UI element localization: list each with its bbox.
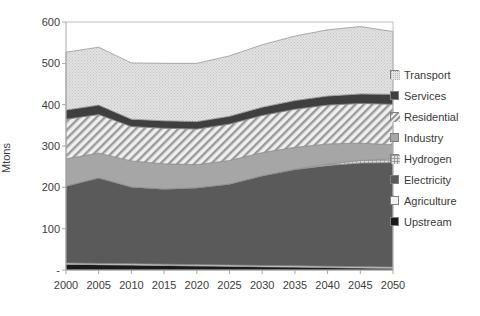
legend-swatch-icon bbox=[390, 91, 399, 100]
legend-label: Industry bbox=[404, 132, 443, 144]
legend-label: Services bbox=[404, 90, 446, 102]
x-tick-label: 2000 bbox=[54, 279, 78, 291]
x-tick-label: 2020 bbox=[185, 279, 209, 291]
x-tick-label: 2005 bbox=[86, 279, 110, 291]
legend-swatch-icon bbox=[390, 70, 399, 79]
legend-swatch-icon bbox=[390, 112, 399, 121]
legend-label: Residential bbox=[404, 111, 458, 123]
legend-label: Agriculture bbox=[404, 195, 457, 207]
legend-label: Upstream bbox=[404, 216, 452, 228]
chart-legend: TransportServicesResidentialIndustryHydr… bbox=[390, 64, 458, 232]
x-tick-label: 2030 bbox=[250, 279, 274, 291]
x-tick-label: 2035 bbox=[283, 279, 307, 291]
legend-swatch-icon bbox=[390, 175, 399, 184]
legend-swatch-icon bbox=[390, 196, 399, 205]
legend-item-hydrogen[interactable]: Hydrogen bbox=[390, 148, 458, 169]
legend-swatch-icon bbox=[390, 133, 399, 142]
x-tick-label: 2040 bbox=[315, 279, 339, 291]
x-tick-label: 2015 bbox=[152, 279, 176, 291]
x-tick-label: 2010 bbox=[119, 279, 143, 291]
legend-item-residential[interactable]: Residential bbox=[390, 106, 458, 127]
legend-item-transport[interactable]: Transport bbox=[390, 64, 458, 85]
legend-item-upstream[interactable]: Upstream bbox=[390, 211, 458, 232]
y-tick-label: 100 bbox=[4, 223, 60, 235]
legend-label: Electricity bbox=[404, 174, 451, 186]
legend-swatch-icon bbox=[390, 217, 399, 226]
y-tick-label: 600 bbox=[4, 16, 60, 28]
y-tick-label: 300 bbox=[4, 140, 60, 152]
y-tick-label: - bbox=[4, 264, 60, 276]
legend-item-industry[interactable]: Industry bbox=[390, 127, 458, 148]
y-tick-label: 400 bbox=[4, 99, 60, 111]
legend-item-agriculture[interactable]: Agriculture bbox=[390, 190, 458, 211]
x-tick-label: 2050 bbox=[381, 279, 405, 291]
legend-label: Hydrogen bbox=[404, 153, 452, 165]
legend-item-services[interactable]: Services bbox=[390, 85, 458, 106]
x-tick-label: 2045 bbox=[348, 279, 372, 291]
legend-item-electricity[interactable]: Electricity bbox=[390, 169, 458, 190]
legend-swatch-icon bbox=[390, 154, 399, 163]
legend-label: Transport bbox=[404, 69, 451, 81]
y-tick-label: 500 bbox=[4, 57, 60, 69]
y-tick-label: 200 bbox=[4, 181, 60, 193]
stacked-area-chart: -100200300400500600 Mtons bbox=[0, 0, 480, 316]
y-axis-title: Mtons bbox=[0, 143, 12, 173]
x-tick-label: 2025 bbox=[217, 279, 241, 291]
